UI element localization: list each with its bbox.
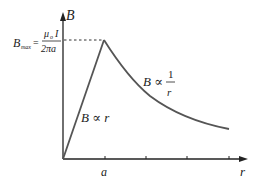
inside-linear-curve bbox=[63, 40, 104, 159]
outside-relation-lhs: B ∝ bbox=[143, 74, 163, 89]
x-tick-label-a: a bbox=[101, 165, 107, 179]
magnetic-field-graph: B r a B max = μ o I 2πa B ∝ r B ∝ 1 r bbox=[0, 0, 257, 182]
x-axis-label: r bbox=[240, 164, 246, 179]
bmax-equals: = bbox=[33, 37, 39, 48]
bmax-denominator: 2πa bbox=[41, 43, 56, 54]
outside-relation-numerator: 1 bbox=[168, 68, 174, 80]
bmax-numerator-I: I bbox=[54, 28, 59, 39]
x-axis-arrow-icon bbox=[239, 156, 248, 162]
outside-relation-denominator: r bbox=[167, 86, 172, 98]
bmax-numerator-mu: μ bbox=[43, 28, 49, 39]
outside-inverse-curve bbox=[104, 40, 229, 129]
bmax-formula: B max = μ o I 2πa bbox=[13, 28, 61, 54]
bmax-numerator-sub: o bbox=[50, 34, 53, 40]
y-axis-label: B bbox=[66, 8, 75, 23]
inside-relation-label: B ∝ r bbox=[81, 110, 110, 125]
bmax-symbol: B bbox=[13, 36, 21, 50]
bmax-subscript: max bbox=[21, 44, 31, 50]
